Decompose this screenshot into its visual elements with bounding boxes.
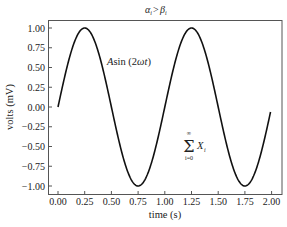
x-tick-label: 0.50 bbox=[103, 196, 121, 207]
x-tick-label: 0.25 bbox=[76, 196, 94, 207]
svg-text:Σ: Σ bbox=[183, 137, 194, 156]
x-axis-label: time (s) bbox=[149, 209, 182, 221]
y-tick-label: −0.50 bbox=[22, 141, 45, 152]
svg-text:βi: βi bbox=[159, 4, 167, 16]
chart-title: αi > βi bbox=[145, 4, 167, 16]
y-tick-label: 0.75 bbox=[28, 42, 46, 53]
x-axis: 0.00 0.25 0.50 0.75 1.00 1.25 1.50 1.75 … bbox=[49, 191, 280, 207]
y-tick-label: 0.50 bbox=[28, 62, 46, 73]
y-tick-label: −0.25 bbox=[22, 121, 45, 132]
annotation-summation: ∞ Σ i=0 X i bbox=[183, 130, 206, 161]
y-tick-label: −0.75 bbox=[22, 161, 45, 172]
chart-canvas: 1.00 0.75 0.50 0.25 0.00 −0.25 −0.50 −0.… bbox=[0, 0, 287, 227]
y-tick-label: −1.00 bbox=[22, 181, 45, 192]
y-tick-label: 0.00 bbox=[28, 102, 46, 113]
svg-text:X: X bbox=[196, 140, 204, 151]
sine-series-line bbox=[58, 28, 271, 186]
svg-text:∞: ∞ bbox=[187, 130, 191, 136]
svg-text:>: > bbox=[153, 4, 159, 15]
svg-text:i=0: i=0 bbox=[185, 155, 193, 161]
x-tick-label: 1.00 bbox=[156, 196, 174, 207]
svg-text:i: i bbox=[204, 147, 206, 153]
x-tick-label: 1.75 bbox=[236, 196, 254, 207]
x-tick-label: 2.00 bbox=[263, 196, 281, 207]
x-tick-label: 0.00 bbox=[49, 196, 67, 207]
y-axis-label: volts (mV) bbox=[4, 84, 16, 130]
y-axis: 1.00 0.75 0.50 0.25 0.00 −0.25 −0.50 −0.… bbox=[22, 23, 52, 192]
x-tick-label: 1.50 bbox=[209, 196, 227, 207]
annotation-asin: Asin (2ωt) bbox=[106, 56, 151, 68]
x-tick-label: 1.25 bbox=[183, 196, 201, 207]
x-tick-label: 0.75 bbox=[129, 196, 147, 207]
y-tick-label: 0.25 bbox=[28, 82, 46, 93]
y-tick-label: 1.00 bbox=[28, 23, 46, 34]
svg-text:αi: αi bbox=[145, 4, 152, 16]
